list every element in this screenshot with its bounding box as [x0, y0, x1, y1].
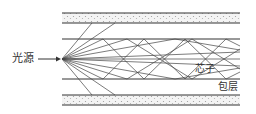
cladding-label: 包层: [218, 82, 238, 92]
source-label: 光源: [12, 53, 34, 64]
upper-cladding: [62, 13, 240, 23]
core-label: 芯子: [195, 64, 215, 74]
fiber-diagram: [0, 0, 256, 114]
source-arrow: [38, 57, 61, 62]
light-rays: [62, 23, 240, 95]
lower-cladding: [62, 95, 240, 105]
